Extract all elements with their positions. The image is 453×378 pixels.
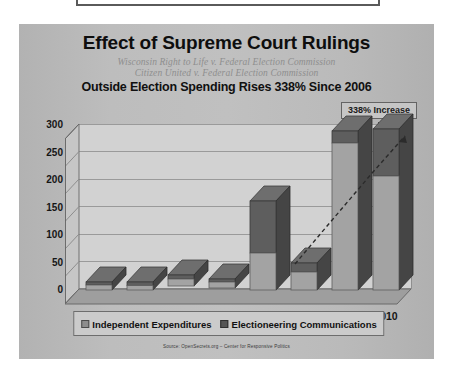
chart-plot-area: 300 250 200 150 100 50 0 bbox=[33, 124, 425, 304]
bar-2002[interactable] bbox=[209, 279, 235, 289]
bar-2000[interactable] bbox=[168, 277, 194, 289]
bar-2010[interactable] bbox=[373, 129, 399, 289]
y-tick-150: 150 bbox=[46, 201, 63, 212]
legend-swatch-independent-expenditures bbox=[81, 320, 89, 328]
legend-swatch-electioneering-communications bbox=[221, 320, 229, 328]
bar-1996[interactable] bbox=[86, 281, 112, 289]
partial-window-frame bbox=[76, 0, 380, 6]
case-citation-2: Citizen United v. Federal Election Commi… bbox=[19, 68, 434, 78]
source-attribution: Source: OpenSecrets.org – Center for Res… bbox=[19, 344, 434, 349]
legend-item-electioneering-communications[interactable]: Electioneering Communications bbox=[221, 319, 377, 330]
y-tick-50: 50 bbox=[52, 256, 63, 267]
bar-2008[interactable] bbox=[332, 131, 358, 289]
legend-item-independent-expenditures[interactable]: Independent Expenditures bbox=[81, 319, 211, 330]
y-tick-200: 200 bbox=[46, 174, 63, 185]
y-tick-300: 300 bbox=[46, 119, 63, 130]
y-tick-250: 250 bbox=[46, 146, 63, 157]
bar-1998[interactable] bbox=[127, 281, 153, 289]
screenshot-root: Effect of Supreme Court Rulings Wisconsi… bbox=[0, 0, 453, 378]
chart-container: 338% Increase 300 250 200 150 100 50 0 bbox=[33, 102, 425, 327]
legend-label-independent-expenditures: Independent Expenditures bbox=[92, 319, 211, 330]
bar-2006[interactable] bbox=[291, 263, 317, 289]
y-tick-100: 100 bbox=[46, 229, 63, 240]
legend-label-electioneering-communications: Electioneering Communications bbox=[232, 319, 377, 330]
y-axis-labels: 300 250 200 150 100 50 0 bbox=[33, 124, 63, 289]
chart-subtitle: Outside Election Spending Rises 338% Sin… bbox=[19, 80, 434, 94]
chart-bars bbox=[79, 124, 411, 289]
y-tick-0: 0 bbox=[57, 284, 63, 295]
chart-legend: Independent ExpendituresElectioneering C… bbox=[73, 311, 384, 336]
page-title: Effect of Supreme Court Rulings bbox=[19, 32, 434, 54]
bar-2004[interactable] bbox=[250, 201, 276, 289]
slide-panel: Effect of Supreme Court Rulings Wisconsi… bbox=[19, 24, 434, 359]
case-citation-1: Wisconsin Right to Life v. Federal Elect… bbox=[19, 57, 434, 67]
